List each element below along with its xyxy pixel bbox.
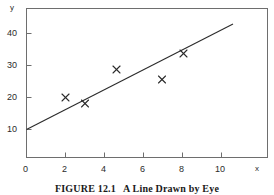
x-tick-label-6: 6: [140, 165, 145, 174]
y-axis-label: y: [10, 4, 14, 12]
fitted-line: [27, 24, 234, 130]
x-tick-label-0: 0: [23, 165, 28, 174]
x-tick-label-8: 8: [179, 165, 184, 174]
y-tick-label-20: 20: [7, 93, 17, 102]
x-tick-label-10: 10: [215, 165, 225, 174]
figure-container: y x 40 30 20 10 0 2 4 6 8 10 FIGURE 12.1…: [0, 0, 274, 195]
data-points: [62, 50, 187, 107]
y-tick-label-30: 30: [7, 61, 17, 70]
figure-caption: FIGURE 12.1A Line Drawn by Eye: [0, 183, 274, 194]
figure-caption-text: A Line Drawn by Eye: [123, 183, 219, 194]
data-point-marker: [62, 94, 69, 101]
x-tick-label-2: 2: [62, 165, 67, 174]
y-axis-ticks: [27, 34, 32, 130]
x-axis-ticks: [66, 153, 222, 158]
data-point-marker: [180, 50, 187, 57]
x-axis-label: x: [255, 165, 259, 173]
figure-caption-number: FIGURE 12.1: [55, 183, 116, 194]
y-tick-label-10: 10: [7, 125, 17, 134]
data-point-marker: [82, 100, 89, 107]
plot-canvas: [0, 0, 274, 195]
data-point-marker: [159, 76, 166, 83]
x-tick-label-4: 4: [101, 165, 106, 174]
y-tick-label-40: 40: [7, 29, 17, 38]
data-point-marker: [113, 66, 120, 73]
